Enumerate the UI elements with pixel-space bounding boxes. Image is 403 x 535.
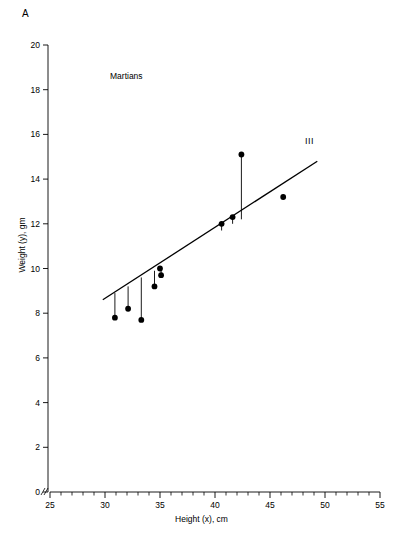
y-axis-tick-label: 10 [31, 264, 41, 274]
y-axis-tick-label: 0 [35, 487, 40, 497]
y-axis-tick-label: 6 [35, 353, 40, 363]
fit-line-label: III [305, 136, 314, 146]
plot-canvas: 02468101214161820 25303540455055 [0, 0, 403, 535]
data-point [230, 214, 236, 220]
data-point [157, 266, 163, 272]
y-axis-tick-label: 18 [31, 85, 41, 95]
data-point [239, 152, 245, 158]
x-axis-tick-label: 40 [210, 500, 220, 510]
data-point [152, 283, 158, 289]
panel-letter: A [22, 8, 29, 19]
regression-line [103, 161, 317, 300]
y-axis-tick-label: 16 [31, 129, 41, 139]
y-axis-tick-label: 4 [35, 398, 40, 408]
data-point [125, 306, 131, 312]
fit-line [103, 161, 317, 300]
y-axis-tick-label: 2 [35, 442, 40, 452]
x-axis-tick-label: 45 [265, 500, 275, 510]
x-axis-tick-label: 25 [45, 500, 55, 510]
data-point [280, 194, 286, 200]
plot-annotation-martians: Martians [110, 71, 143, 81]
x-axis-tick-label: 35 [155, 500, 165, 510]
x-axis-title: Height (x), cm [0, 514, 403, 524]
y-axis: 02468101214161820 [31, 40, 48, 497]
x-axis: 25303540455055 [41, 488, 385, 510]
data-point [219, 221, 225, 227]
y-axis-tick-label: 8 [35, 308, 40, 318]
scatter-plot-figure: A Martians III Height (x), cm Weight (y)… [0, 0, 403, 535]
data-point [158, 272, 164, 278]
y-axis-title: Weight (y), gm [17, 175, 27, 315]
x-axis-tick-label: 55 [375, 500, 385, 510]
x-axis-tick-label: 30 [100, 500, 110, 510]
data-point [112, 315, 118, 321]
y-axis-tick-label: 12 [31, 219, 41, 229]
y-axis-tick-label: 14 [31, 174, 41, 184]
x-axis-tick-label: 50 [320, 500, 330, 510]
y-axis-tick-label: 20 [31, 40, 41, 50]
data-point [138, 317, 144, 323]
